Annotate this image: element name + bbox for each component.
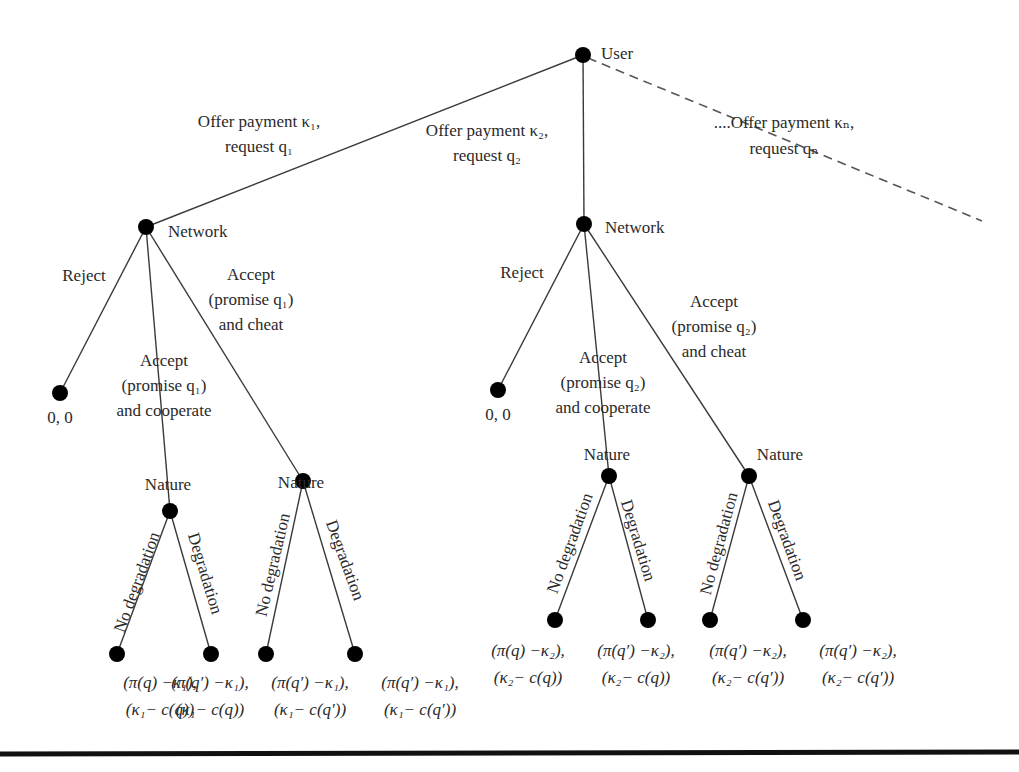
svg-text:(π(q′) −κ₁),: (π(q′) −κ₁),: [171, 673, 248, 692]
payoff-left-4: (π(q′) −κ₁), (κ₁− c(q′)): [381, 673, 458, 719]
nature-label-3: Nature: [584, 445, 630, 464]
svg-text:(π(q′) −κ₂),: (π(q′) −κ₂),: [709, 641, 786, 660]
svg-text:(promise q₁): (promise q₁): [122, 376, 207, 395]
degradation-label-3: Degradation: [617, 497, 660, 583]
bottom-rule-divider: [0, 752, 1019, 754]
svg-text:and cooperate: and cooperate: [556, 398, 651, 417]
network-node-1: [138, 219, 154, 235]
svg-text:Accept: Accept: [140, 351, 188, 370]
nature-label-2: Nature: [278, 473, 324, 492]
payoff-left-3: (π(q′) −κ₁), (κ₁− c(q′)): [271, 673, 348, 719]
reject-label-2: Reject: [500, 263, 544, 282]
svg-text:(κ₂− c(q′)): (κ₂− c(q′)): [712, 668, 785, 687]
payoff-right-2: (π(q′) −κ₂), (κ₂− c(q)): [597, 641, 674, 687]
offer-label-n: ....Offer payment κₙ, request qₙ: [714, 113, 855, 158]
user-node: [575, 47, 591, 63]
svg-text:(κ₂− c(q)): (κ₂− c(q)): [494, 668, 563, 687]
svg-text:and cheat: and cheat: [682, 342, 747, 361]
svg-text:(κ₂− c(q′)): (κ₂− c(q′)): [822, 668, 895, 687]
svg-text:(promise q₁): (promise q₁): [209, 290, 294, 309]
terminal-node: [795, 612, 811, 628]
reject-leaf-1: [52, 385, 68, 401]
terminal-node: [109, 646, 125, 662]
nature-node-1: [162, 503, 178, 519]
edge-offer-2: [583, 55, 584, 224]
terminal-node: [203, 646, 219, 662]
diagram-canvas: User Network Network Nature Nature Natur…: [0, 0, 1019, 772]
edge-reject-1: [60, 227, 146, 393]
svg-text:(π(q′) −κ₁),: (π(q′) −κ₁),: [381, 673, 458, 692]
no-degradation-label-4: No degradation: [696, 490, 742, 597]
svg-text:Offer payment κ₂,: Offer payment κ₂,: [426, 121, 548, 140]
accept-cooperate-label-2: Accept (promise q₂) and cooperate: [556, 348, 651, 417]
svg-text:....Offer payment κₙ,: ....Offer payment κₙ,: [714, 113, 855, 132]
svg-text:(π(q′) −κ₂),: (π(q′) −κ₂),: [819, 641, 896, 660]
svg-text:(promise q₂): (promise q₂): [672, 317, 757, 336]
offer-label-2: Offer payment κ₂, request q₂: [426, 121, 548, 165]
svg-text:and cooperate: and cooperate: [117, 401, 212, 420]
nature-label-1: Nature: [145, 475, 191, 494]
svg-text:Accept: Accept: [227, 265, 275, 284]
reject-payoff-1: 0, 0: [47, 408, 73, 427]
payoff-right-1: (π(q) −κ₂), (κ₂− c(q)): [491, 641, 565, 687]
network-node-2: [576, 216, 592, 232]
payoff-right-4: (π(q′) −κ₂), (κ₂− c(q′)): [819, 641, 896, 687]
svg-text:(π(q) −κ₂),: (π(q) −κ₂),: [491, 641, 565, 660]
terminal-node: [640, 612, 656, 628]
accept-cheat-label-1: Accept (promise q₁) and cheat: [209, 265, 294, 334]
svg-text:Offer payment κ₁,: Offer payment κ₁,: [198, 112, 320, 131]
reject-leaf-2: [490, 382, 506, 398]
nature-node-4: [741, 468, 757, 484]
accept-cooperate-label-1: Accept (promise q₁) and cooperate: [117, 351, 212, 420]
terminal-node: [347, 646, 363, 662]
reject-payoff-2: 0, 0: [485, 405, 511, 424]
svg-text:Accept: Accept: [690, 292, 738, 311]
edge-reject-2: [498, 224, 584, 390]
network-label-2: Network: [605, 218, 665, 237]
nature-label-4: Nature: [757, 445, 803, 464]
svg-text:(π(q′) −κ₂),: (π(q′) −κ₂),: [597, 641, 674, 660]
game-tree-diagram: User Network Network Nature Nature Natur…: [0, 0, 1019, 772]
svg-text:and cheat: and cheat: [219, 315, 284, 334]
svg-text:(κ₁− c(q)): (κ₁− c(q)): [176, 700, 245, 719]
degradation-label-4: Degradation: [764, 497, 811, 583]
svg-text:(κ₁− c(q′)): (κ₁− c(q′)): [274, 700, 347, 719]
degradation-label-1: Degradation: [184, 530, 227, 616]
svg-text:request q₂: request q₂: [453, 146, 521, 165]
terminal-node: [547, 612, 563, 628]
svg-text:request qₙ: request qₙ: [749, 139, 818, 158]
edge-offer-1: [146, 55, 583, 227]
payoff-left-2: (π(q′) −κ₁), (κ₁− c(q)): [171, 673, 248, 719]
svg-text:(promise q₂): (promise q₂): [561, 373, 646, 392]
user-label: User: [601, 44, 633, 63]
svg-text:Accept: Accept: [579, 348, 627, 367]
nature-node-3: [601, 468, 617, 484]
network-label-1: Network: [168, 222, 228, 241]
no-degradation-label-2: No degradation: [252, 511, 294, 618]
terminal-node: [702, 612, 718, 628]
terminal-node: [258, 646, 274, 662]
svg-text:(π(q′) −κ₁),: (π(q′) −κ₁),: [271, 673, 348, 692]
svg-text:(κ₂− c(q)): (κ₂− c(q)): [602, 668, 671, 687]
svg-text:request q₁: request q₁: [225, 137, 293, 156]
payoff-right-3: (π(q′) −κ₂), (κ₂− c(q′)): [709, 641, 786, 687]
svg-text:(κ₁− c(q′)): (κ₁− c(q′)): [384, 700, 457, 719]
offer-label-1: Offer payment κ₁, request q₁: [198, 112, 320, 156]
reject-label-1: Reject: [62, 266, 106, 285]
degradation-label-2: Degradation: [322, 517, 369, 603]
accept-cheat-label-2: Accept (promise q₂) and cheat: [672, 292, 757, 361]
no-degradation-label-1: No degradation: [110, 529, 164, 635]
